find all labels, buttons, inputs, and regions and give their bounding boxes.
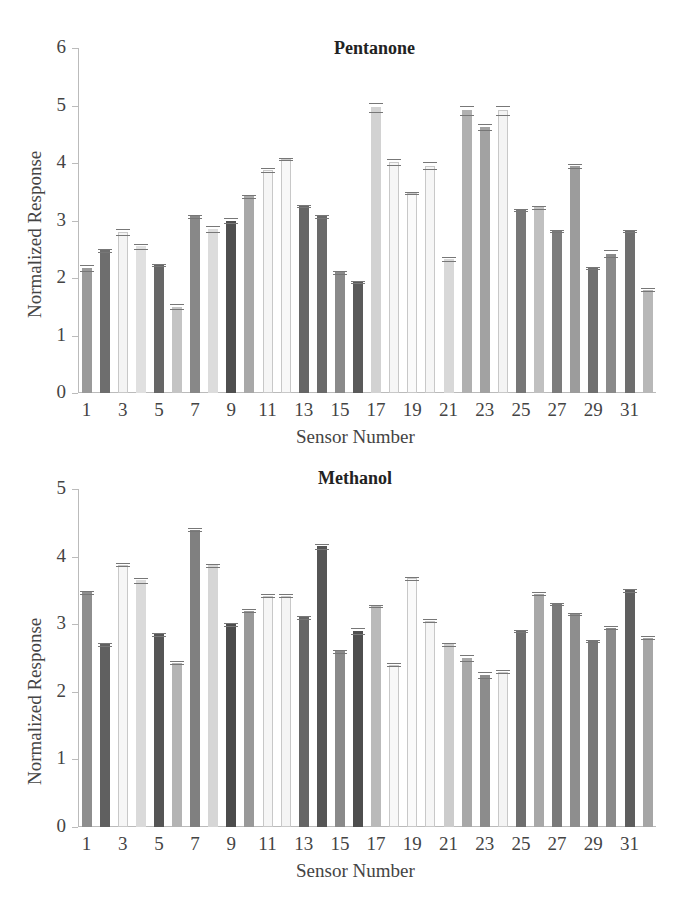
bar-sensor-25	[516, 631, 526, 827]
y-tick	[72, 489, 78, 490]
error-bar-cap	[478, 124, 492, 125]
x-tick-label: 3	[108, 399, 138, 421]
bar-sensor-23	[480, 127, 490, 393]
error-bar-cap	[152, 633, 166, 634]
error-bar-cap	[297, 616, 311, 617]
error-bar-cap	[586, 640, 600, 641]
error-bar-cap	[242, 609, 256, 610]
bar-sensor-4	[136, 246, 146, 393]
error-bar-cap	[116, 563, 130, 564]
bar-sensor-27	[552, 604, 562, 827]
x-tick-label: 13	[289, 833, 319, 855]
bar-sensor-13	[299, 206, 309, 393]
x-tick-label: 11	[253, 399, 283, 421]
y-tick-label: 6	[36, 36, 66, 58]
error-bar-cap	[387, 666, 401, 667]
error-bar-cap	[80, 265, 94, 266]
y-tick-label: 5	[36, 477, 66, 499]
bar-sensor-17	[371, 606, 381, 827]
bar-sensor-24	[498, 110, 508, 393]
error-bar-cap	[604, 629, 618, 630]
error-bar-cap	[351, 628, 365, 629]
error-bar-cap	[641, 288, 655, 289]
error-bar-cap	[315, 218, 329, 219]
y-tick	[72, 827, 78, 828]
error-bar-cap	[206, 567, 220, 568]
error-bar-cap	[478, 672, 492, 673]
x-tick-label: 21	[434, 833, 464, 855]
x-tick-label: 9	[216, 399, 246, 421]
error-bar-cap	[80, 271, 94, 272]
error-bar-cap	[116, 235, 130, 236]
bar-sensor-19	[407, 578, 417, 827]
x-axis-label: Sensor Number	[296, 426, 415, 448]
x-tick-label: 9	[216, 833, 246, 855]
y-tick-label: 0	[36, 381, 66, 403]
error-bar-cap	[98, 249, 112, 250]
x-tick-label: 11	[253, 833, 283, 855]
chart-pentanone: Pentanone Normalized Response 0123456135…	[0, 0, 679, 455]
y-tick	[72, 393, 78, 394]
error-bar-cap	[188, 531, 202, 532]
error-bar-cap	[297, 207, 311, 208]
bar-sensor-9	[226, 624, 236, 827]
bar-sensor-21	[444, 259, 454, 393]
x-tick-label: 19	[397, 833, 427, 855]
error-bar-cap	[604, 626, 618, 627]
error-bar-cap	[206, 564, 220, 565]
x-tick-label: 17	[361, 833, 391, 855]
error-bar-cap	[297, 205, 311, 206]
error-bar-cap	[387, 159, 401, 160]
error-bar-cap	[568, 164, 582, 165]
error-bar-cap	[550, 230, 564, 231]
error-bar-cap	[152, 636, 166, 637]
error-bar-cap	[206, 226, 220, 227]
x-tick-label: 19	[397, 399, 427, 421]
bar-sensor-14	[317, 546, 327, 827]
error-bar-cap	[333, 274, 347, 275]
error-bar-cap	[242, 612, 256, 613]
y-tick-label: 3	[36, 209, 66, 231]
error-bar-cap	[496, 673, 510, 674]
error-bar-cap	[333, 650, 347, 651]
error-bar-cap	[315, 544, 329, 545]
error-bar-cap	[279, 594, 293, 595]
error-bar-cap	[261, 594, 275, 595]
x-tick-label: 1	[72, 399, 102, 421]
error-bar-cap	[98, 252, 112, 253]
error-bar-cap	[170, 309, 184, 310]
error-bar-cap	[80, 591, 94, 592]
bar-sensor-19	[407, 193, 417, 393]
x-tick-label: 15	[325, 399, 355, 421]
bar-sensor-2	[100, 644, 110, 827]
error-bar-cap	[351, 283, 365, 284]
x-tick-label: 23	[470, 833, 500, 855]
error-bar-cap	[261, 168, 275, 169]
error-bar-cap	[134, 583, 148, 584]
error-bar-cap	[604, 250, 618, 251]
error-bar-cap	[623, 230, 637, 231]
error-bar-cap	[279, 597, 293, 598]
error-bar-cap	[279, 158, 293, 159]
bar-sensor-30	[606, 254, 616, 393]
chart-title: Methanol	[318, 468, 392, 489]
error-bar-cap	[496, 106, 510, 107]
bar-sensor-32	[643, 290, 653, 394]
bar-sensor-24	[498, 672, 508, 827]
error-bar-cap	[369, 605, 383, 606]
error-bar-cap	[242, 195, 256, 196]
error-bar-cap	[333, 653, 347, 654]
bar-sensor-6	[172, 663, 182, 827]
x-tick-label: 25	[506, 399, 536, 421]
error-bar-cap	[423, 622, 437, 623]
error-bar-cap	[514, 632, 528, 633]
y-tick	[72, 336, 78, 337]
x-tick-label: 29	[578, 833, 608, 855]
error-bar-cap	[152, 264, 166, 265]
y-tick-label: 5	[36, 94, 66, 116]
y-tick-label: 2	[36, 266, 66, 288]
error-bar-cap	[206, 232, 220, 233]
bar-sensor-18	[389, 162, 399, 393]
bar-sensor-27	[552, 231, 562, 393]
bar-sensor-13	[299, 617, 309, 827]
